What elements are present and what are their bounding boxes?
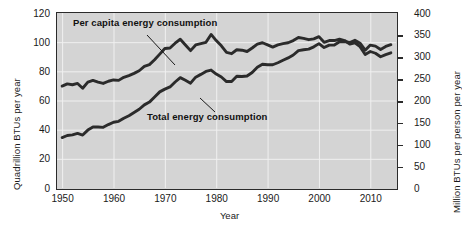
y-axis-right-tick-mark	[398, 57, 403, 59]
x-axis-tick-label: 2000	[294, 194, 344, 204]
y-axis-right-tick-mark	[398, 167, 403, 169]
per-capita-series-label: Per capita energy consumption	[73, 17, 217, 28]
plot-canvas	[57, 13, 396, 188]
y-axis-right-tick-mark	[398, 101, 403, 103]
y-axis-right-tick-mark	[398, 79, 403, 81]
x-axis-tick-label: 1980	[192, 194, 242, 204]
total-series-label: Total energy consumption	[147, 111, 267, 122]
y-axis-right-tick-mark	[398, 123, 403, 125]
total-leader-line	[200, 98, 215, 112]
x-axis-tick-label: 1960	[89, 194, 139, 204]
y-axis-right-tick-mark	[398, 145, 403, 147]
data-series	[62, 34, 391, 137]
per-capita-leader-line	[147, 35, 175, 65]
plot-area: Per capita energy consumption Total ener…	[56, 12, 398, 190]
x-axis-tick-label: 1990	[243, 194, 293, 204]
x-axis-tick-label: 1950	[38, 194, 88, 204]
y-axis-right-tick-mark	[398, 35, 403, 37]
series-line-total	[62, 40, 391, 137]
x-axis-tick-label: 1970	[140, 194, 190, 204]
x-axis-tick-label: 2010	[346, 194, 396, 204]
